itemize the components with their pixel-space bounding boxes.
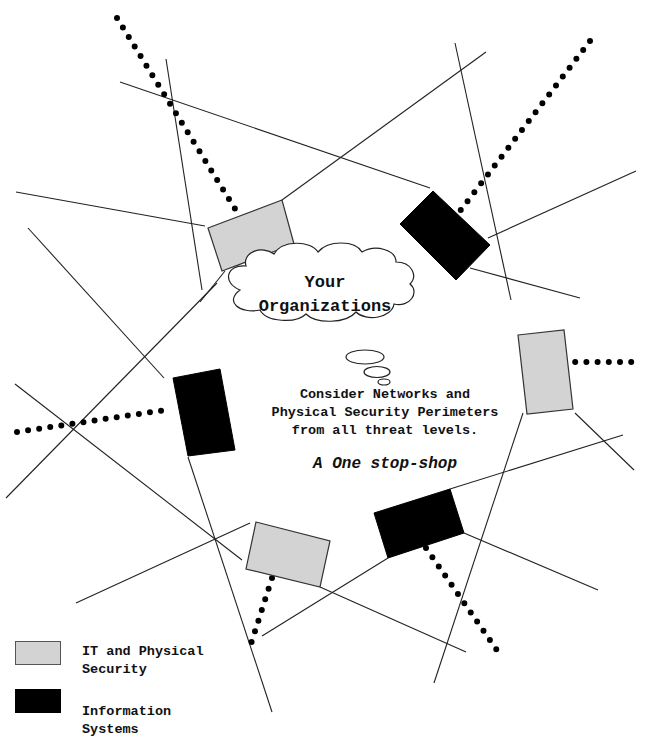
legend-swatch-it-physical-security <box>15 641 61 665</box>
description: Consider Networks and Physical Security … <box>255 386 515 440</box>
cloud-title: Your Organizations <box>240 271 410 319</box>
legend-swatch-information-systems <box>15 689 61 713</box>
threat-path-top-right <box>460 41 590 211</box>
cloud-title-line2: Organizations <box>240 295 410 319</box>
legend-label-it-physical-security: IT and Physical Security <box>82 643 204 679</box>
threat-path-bottom-left <box>250 578 272 647</box>
description-line2: Physical Security Perimeters <box>255 404 515 422</box>
it-security-node-bottom-left <box>246 522 330 587</box>
description-line1: Consider Networks and <box>255 386 515 404</box>
info-systems-node-bottom-right <box>374 489 464 558</box>
thought-bubble-medium <box>364 367 390 378</box>
it-security-node-right <box>518 330 573 414</box>
thought-bubble-large <box>346 350 384 364</box>
tagline: A One stop-shop <box>255 455 515 473</box>
legend-label-information-systems: Information Systems <box>82 703 171 739</box>
cloud-title-line1: Your <box>240 271 410 295</box>
thought-bubble-small <box>378 379 390 385</box>
info-systems-node-top-right <box>400 191 490 280</box>
threat-path-left <box>17 409 172 432</box>
description-line3: from all threat levels. <box>255 422 515 440</box>
network-perimeter-diagram <box>0 0 648 750</box>
threat-path-top-left <box>117 18 237 212</box>
info-systems-node-left <box>173 369 235 456</box>
